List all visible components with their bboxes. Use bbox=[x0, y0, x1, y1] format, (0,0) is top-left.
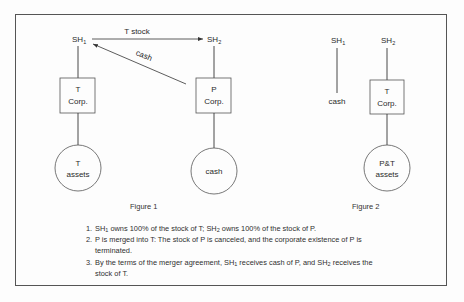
notes-list: 1. SH1 owns 100% of the stock of T; SH2 … bbox=[86, 223, 386, 279]
fig1-p-corp-line2: Corp. bbox=[204, 97, 224, 106]
fig2-pt-assets-circle bbox=[364, 145, 410, 191]
fig1-sh1-label: SH1 bbox=[72, 35, 86, 45]
fig2-sh2-label: SH2 bbox=[381, 36, 395, 46]
fig2-pt-assets-line1: P&T bbox=[379, 159, 395, 168]
fig2-t-corp-box bbox=[370, 80, 404, 114]
fig1-t-corp-line2: Corp. bbox=[68, 97, 88, 106]
fig1-t-assets-line2: assets bbox=[66, 170, 89, 179]
note-text: owns 100% of the stock of T; SH bbox=[108, 224, 216, 233]
cash-arrow-label: cash bbox=[134, 48, 153, 63]
note-text: P is merged into T: The stock of P is ca… bbox=[95, 235, 362, 255]
t-stock-arrow-label: T stock bbox=[124, 27, 151, 36]
fig2-sh1-label: SH1 bbox=[331, 36, 345, 46]
note-number: 3. bbox=[86, 257, 92, 268]
figure-1: SH1 SH2 T stock cash T Corp. T assets P … bbox=[55, 27, 237, 194]
note-1: 1. SH1 owns 100% of the stock of T; SH2 … bbox=[86, 223, 386, 234]
fig1-t-assets-circle bbox=[55, 145, 101, 191]
note-text: owns 100% of the stock of P. bbox=[220, 224, 316, 233]
note-number: 1. bbox=[86, 223, 92, 234]
note-2: 2. P is merged into T: The stock of P is… bbox=[86, 234, 386, 256]
fig1-sh2-label: SH2 bbox=[207, 35, 221, 45]
fig1-t-corp-line1: T bbox=[76, 85, 81, 94]
fig1-t-corp-box bbox=[60, 78, 95, 113]
fig2-pt-assets-line2: assets bbox=[375, 170, 398, 179]
note-text: SH bbox=[95, 224, 105, 233]
fig1-t-assets-line1: T bbox=[76, 159, 81, 168]
figure-2-caption: Figure 2 bbox=[352, 202, 380, 211]
fig1-p-corp-line1: P bbox=[211, 85, 216, 94]
fig2-sh1-cash-label: cash bbox=[329, 97, 346, 106]
note-text: receives cash of P, and SH bbox=[237, 258, 327, 267]
fig1-p-corp-box bbox=[196, 78, 231, 113]
fig1-p-cash-label: cash bbox=[206, 167, 223, 176]
fig2-t-corp-line1: T bbox=[385, 87, 390, 96]
fig2-t-corp-line2: Corp. bbox=[377, 99, 397, 108]
note-text: By the terms of the merger agreement, SH bbox=[95, 258, 234, 267]
note-number: 2. bbox=[86, 234, 92, 245]
note-3: 3. By the terms of the merger agreement,… bbox=[86, 257, 386, 279]
figure-1-caption: Figure 1 bbox=[130, 202, 158, 211]
figure-2: SH1 cash SH2 T Corp. P&T assets bbox=[329, 36, 410, 191]
